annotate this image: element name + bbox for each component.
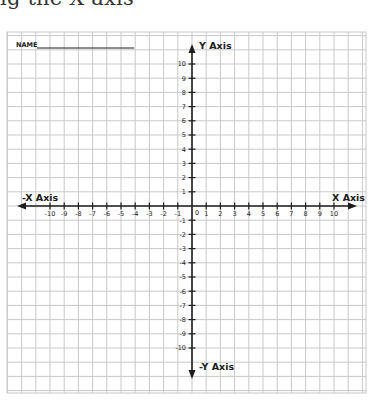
x-tick-label: 9 [318, 210, 322, 218]
y-tick-label: 3 [182, 160, 186, 168]
y-axis-down-arrow-icon [189, 370, 196, 379]
x-tick-label: -7 [89, 210, 95, 218]
y-tick-label: 8 [182, 89, 186, 97]
y-tick-label: -2 [180, 231, 186, 239]
x-tick-label: 1 [204, 210, 208, 218]
name-label: NAME [16, 41, 37, 49]
x-tick-label: -2 [160, 210, 166, 218]
x-tick-label: -3 [146, 210, 152, 218]
y-tick-label: 9 [182, 75, 186, 83]
y-axis-up-arrow-icon [189, 44, 196, 53]
coordinate-plane: NAME -10-9-8-7-6-5-4-3-2-112345678910109… [0, 0, 373, 405]
y-tick-label: -10 [175, 344, 186, 352]
x-tick-label: -6 [104, 210, 110, 218]
y-tick-label: 4 [182, 146, 186, 154]
y-tick-label: 6 [182, 117, 186, 125]
neg-y-axis-label: -Y Axis [199, 361, 234, 372]
x-tick-label: -9 [61, 210, 67, 218]
x-tick-label: 6 [275, 210, 279, 218]
origin-label: 0 [195, 209, 199, 217]
neg-x-axis-label: -X Axis [22, 192, 59, 203]
y-tick-label: 5 [182, 131, 186, 139]
y-tick-label: 7 [182, 103, 186, 111]
x-tick-label: 5 [261, 210, 265, 218]
y-tick-label: -3 [180, 245, 186, 253]
y-tick-label: -6 [180, 288, 186, 296]
x-axis-right-arrow-icon [348, 203, 357, 210]
x-tick-label: -4 [132, 210, 138, 218]
y-tick-label: -9 [180, 330, 186, 338]
y-tick-label: 2 [182, 174, 186, 182]
x-tick-label: -5 [118, 210, 124, 218]
x-tick-label: -10 [45, 210, 56, 218]
y-tick-label: -1 [180, 217, 186, 225]
y-tick-label: -7 [180, 302, 186, 310]
x-axis-label: X Axis [332, 192, 365, 203]
x-tick-label: 7 [289, 210, 293, 218]
x-tick-label: 4 [247, 210, 251, 218]
y-axis-label: Y Axis [198, 40, 232, 51]
x-tick-label: 8 [304, 210, 308, 218]
x-tick-label: 2 [218, 210, 222, 218]
y-tick-label: -8 [180, 316, 186, 324]
y-tick-label: -4 [180, 259, 186, 267]
x-tick-label: -8 [75, 210, 81, 218]
x-tick-label: 10 [330, 210, 338, 218]
x-tick-label: 3 [233, 210, 237, 218]
y-tick-label: -5 [180, 273, 186, 281]
y-tick-label: 10 [178, 60, 186, 68]
y-tick-label: 1 [182, 188, 186, 196]
